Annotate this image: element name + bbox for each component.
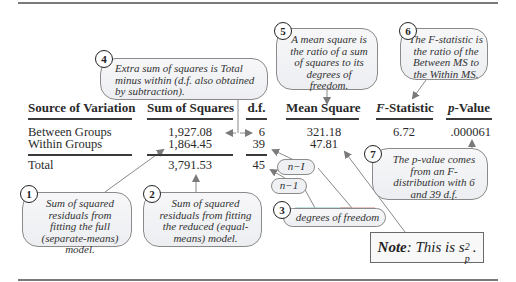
callout-3: degrees of freedom	[283, 208, 386, 227]
pill-n-minus-one: n−1	[271, 178, 307, 194]
header-sum-of-squares: Sum of Squares	[147, 100, 233, 120]
header-f-label: -Statistic	[385, 100, 434, 115]
callout-4-text: Extra sum of squares is Total minus with…	[115, 62, 254, 97]
callout-2-text: Sum of squared residuals from fitting th…	[159, 197, 251, 244]
callout-7: The p-value comes from an F-distribution…	[372, 148, 488, 200]
callout-1: Sum of squared residuals from fitting th…	[22, 192, 132, 247]
callout-7-number: 7	[364, 145, 382, 163]
callout-1-text: Sum of squared residuals from fitting th…	[42, 197, 119, 255]
pill-n-minus-groups: n−I	[277, 159, 315, 175]
note-subscript: p	[465, 244, 470, 273]
row-within-ms: 47.81	[296, 138, 352, 151]
callout-4: Extra sum of squares is Total minus with…	[100, 58, 268, 100]
callout-4-number: 4	[95, 50, 113, 68]
row-between-p: .000061	[440, 126, 491, 139]
callout-2-number: 2	[143, 185, 161, 203]
header-f-letter: F	[376, 100, 385, 115]
row-total-df: 45	[246, 159, 265, 172]
note-box: Note: This is s2p.	[370, 232, 484, 263]
header-f-statistic: F-Statistic	[376, 100, 433, 120]
row-total-source: Total	[28, 159, 54, 172]
header-df: d.f.	[246, 100, 267, 120]
row-total-ss: 3,791.53	[160, 159, 212, 172]
header-source: Source of Variation	[28, 100, 132, 120]
header-p-value: p-Value	[446, 100, 492, 120]
callout-3-text: degrees of freedom	[296, 211, 380, 223]
divider-ss	[147, 154, 233, 156]
header-p-label: -Value	[454, 100, 490, 115]
divider-df	[246, 154, 267, 156]
callout-5-text: A mean square is the ratio of a sum of s…	[290, 33, 368, 91]
callout-5: A mean square is the ratio of a sum of s…	[276, 28, 378, 90]
callout-2: Sum of squared residuals from fitting th…	[143, 192, 262, 247]
top-rule	[18, 2, 498, 4]
row-within-df: 39	[246, 138, 265, 151]
row-within-ss: 1,864.45	[160, 138, 212, 151]
callout-6-text: The F-statistic is the ratio of the Betw…	[409, 33, 483, 80]
note-period: .	[473, 239, 477, 255]
row-within-source: Within Groups	[28, 138, 102, 151]
divider-source	[28, 154, 132, 156]
header-mean-square: Mean Square	[286, 100, 359, 120]
note-label: Note	[378, 239, 407, 255]
callout-1-number: 1	[20, 185, 38, 203]
bottom-rule	[18, 279, 498, 281]
callout-5-number: 5	[274, 22, 292, 40]
callout-6-number: 6	[399, 22, 417, 40]
callout-7-text: The p-value comes from an F-distribution…	[393, 153, 475, 200]
row-between-f: 6.72	[384, 126, 424, 139]
note-text: : This is s	[407, 239, 465, 255]
callout-3-number: 3	[273, 201, 291, 219]
